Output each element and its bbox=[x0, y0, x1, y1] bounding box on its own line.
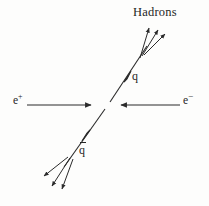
positron-label: e+ bbox=[13, 95, 23, 107]
antiquark-label: q bbox=[79, 142, 86, 156]
diagram-canvas bbox=[0, 0, 209, 206]
lower-jet-arrow-3 bbox=[62, 159, 73, 189]
feynman-diagram-figure: Hadrons q q e+ e− bbox=[0, 0, 209, 206]
upper-hadron-jet bbox=[140, 28, 165, 58]
positron-charge-superscript: + bbox=[18, 92, 23, 101]
antiquark-label-text: q bbox=[79, 143, 85, 157]
quark-direction-arrowhead bbox=[124, 71, 131, 82]
lower-hadron-jet bbox=[44, 157, 73, 189]
quark-label: q bbox=[132, 70, 138, 82]
hadrons-label: Hadrons bbox=[133, 6, 177, 19]
upper-jet-arrow-3 bbox=[144, 34, 165, 55]
electron-label: e− bbox=[183, 95, 193, 107]
antiquark-direction-arrowhead bbox=[82, 130, 90, 141]
upper-jet-arrow-1 bbox=[140, 28, 149, 58]
electron-charge-superscript: − bbox=[188, 91, 193, 101]
